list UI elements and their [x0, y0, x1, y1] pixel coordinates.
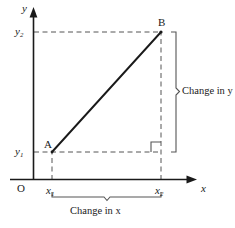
horizontal-bracket: [52, 192, 161, 201]
change-in-y-label: Change in y: [182, 86, 233, 97]
y-axis-arrowhead: [30, 7, 38, 18]
point-a-marker: [51, 151, 54, 154]
x-axis-arrowhead: [187, 176, 198, 184]
x2-sub: 2: [160, 190, 163, 197]
y1-sub: 1: [20, 151, 23, 158]
segment-ab: [52, 32, 161, 152]
y-tick-label-y1: y1: [15, 146, 23, 157]
diagram-canvas: [0, 0, 235, 228]
x-axis-label: x: [201, 183, 206, 194]
slope-diagram-figure: y x O y2 y1 x1 x2 A B Change in y Change…: [0, 0, 235, 228]
y2-sub: 2: [20, 31, 23, 38]
x-tick-label-x2: x2: [155, 185, 163, 196]
x1-sub: 1: [51, 190, 54, 197]
origin-label: O: [17, 183, 25, 194]
x-tick-label-x1: x1: [46, 185, 54, 196]
y-tick-label-y2: y2: [15, 26, 23, 37]
vertical-bracket: [171, 32, 180, 152]
point-b-label: B: [158, 17, 165, 28]
y-axis-label: y: [22, 3, 27, 14]
change-in-x-label: Change in x: [70, 206, 121, 217]
right-angle-icon: [151, 142, 161, 152]
point-a-label: A: [44, 139, 52, 150]
point-b-marker: [159, 30, 162, 33]
